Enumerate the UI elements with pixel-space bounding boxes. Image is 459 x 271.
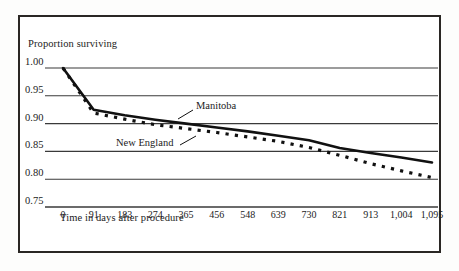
series-label-new-england: New England — [116, 137, 173, 148]
figure-container: Proportion surviving Time in days after … — [0, 0, 459, 271]
plot-area — [0, 0, 459, 271]
leader-line — [180, 136, 196, 145]
y-tick-label: 0.75 — [25, 195, 43, 206]
series-label-manitoba: Manitoba — [196, 100, 236, 111]
series-line-manitoba — [63, 68, 432, 163]
x-tick-label: 1,095 — [412, 209, 452, 220]
series-curves — [63, 68, 432, 178]
y-tick-label: 1.00 — [25, 56, 43, 67]
gridlines — [45, 68, 438, 207]
y-tick-label: 0.95 — [25, 84, 43, 95]
y-tick-label: 0.80 — [25, 167, 43, 178]
leader-line — [178, 110, 193, 119]
series-line-new-england — [63, 68, 432, 178]
y-tick-label: 0.85 — [25, 139, 43, 150]
y-tick-label: 0.90 — [25, 112, 43, 123]
